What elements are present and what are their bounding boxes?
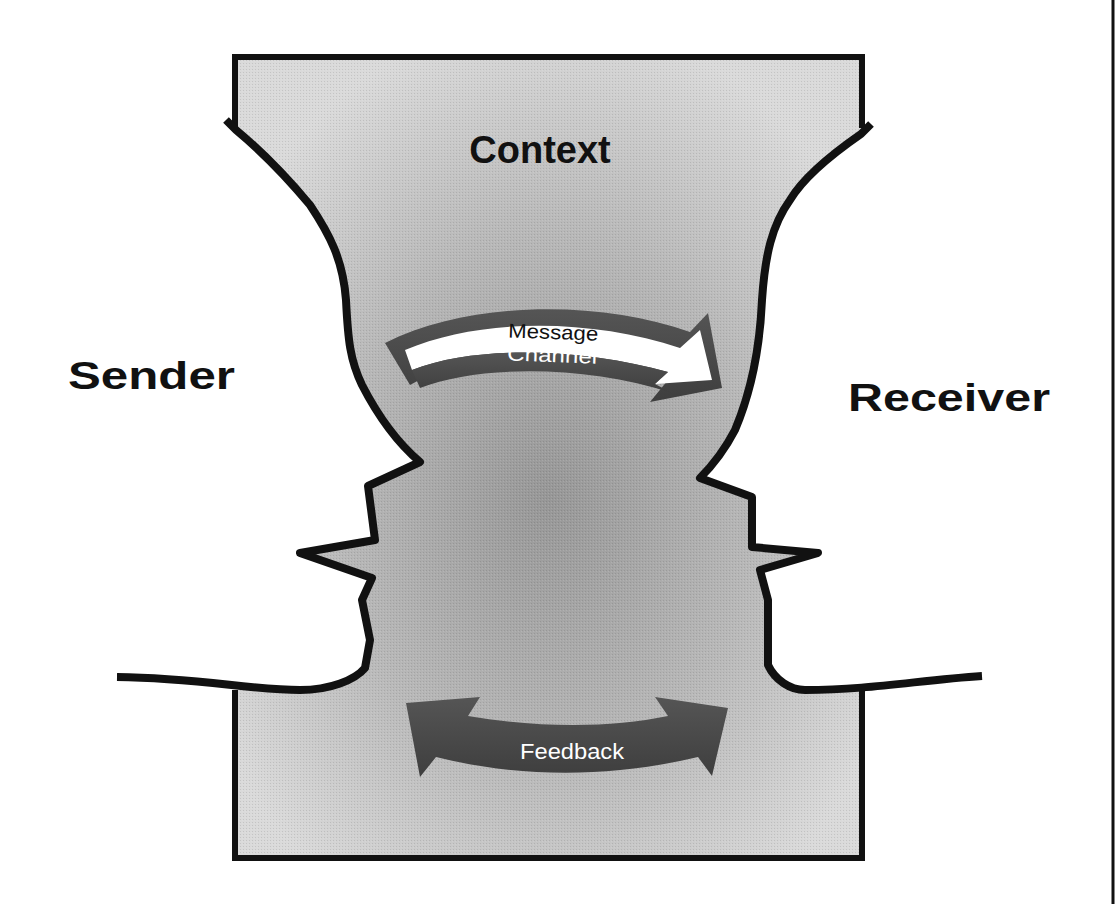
communication-diagram: Message Channel Feedback Context Sender … — [0, 0, 1118, 904]
channel-label: Channel — [507, 342, 598, 367]
receiver-label: Receiver — [848, 377, 1050, 419]
context-label: Context — [469, 129, 611, 171]
message-label: Message — [508, 319, 599, 344]
sender-label: Sender — [68, 355, 235, 397]
feedback-label: Feedback — [520, 739, 625, 764]
